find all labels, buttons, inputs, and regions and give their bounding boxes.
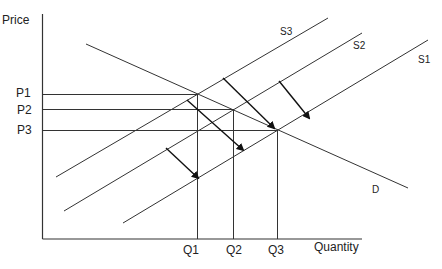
quantity-label-q3: Q3 <box>268 244 284 256</box>
shift-arrow-icon <box>187 100 243 150</box>
curve-s3-line <box>56 18 328 177</box>
axes <box>43 14 363 239</box>
shift-arrow-icon <box>279 81 309 118</box>
quantity-label-q2: Q2 <box>226 244 242 256</box>
x-axis-label: Quantity <box>314 241 359 253</box>
shift-arrow-icon <box>166 148 198 178</box>
shift-arrow-icon <box>223 78 274 128</box>
price-label-p1: P1 <box>16 87 31 99</box>
quantity-label-q1: Q1 <box>183 244 199 256</box>
curve-label-s3: S3 <box>280 27 292 37</box>
curve-s2-line <box>64 33 362 211</box>
price-label-p2: P2 <box>17 104 32 116</box>
curve-label-d: D <box>372 185 379 195</box>
supply-demand-diagram <box>0 0 442 269</box>
curve-label-s1: S1 <box>418 55 430 65</box>
curve-label-s2: S2 <box>353 41 365 51</box>
curve-s1-line <box>123 40 428 223</box>
y-axis-label: Price <box>2 14 29 26</box>
price-label-p3: P3 <box>17 124 32 136</box>
shift-arrows <box>166 78 309 178</box>
